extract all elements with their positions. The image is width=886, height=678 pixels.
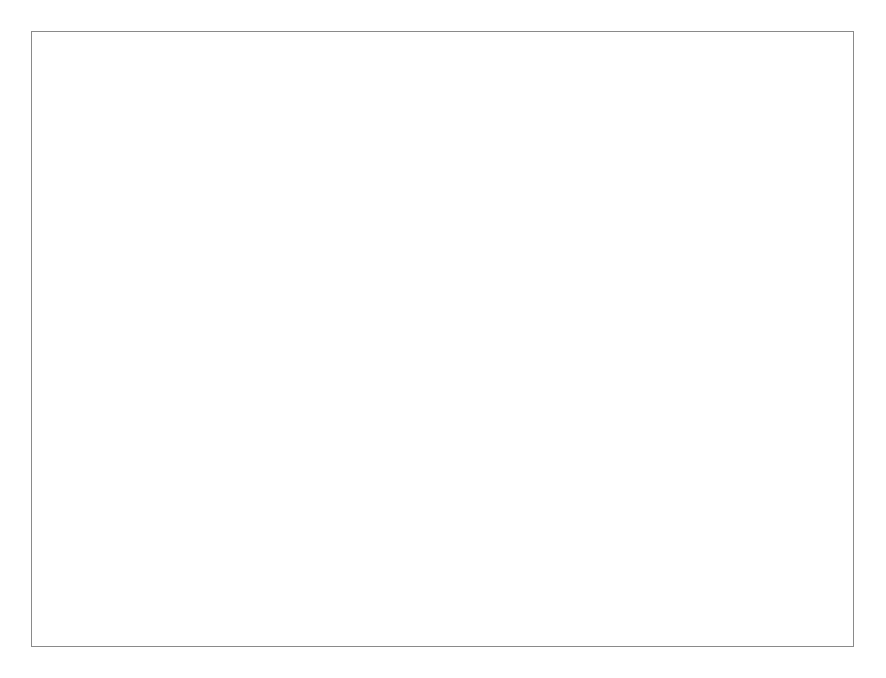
chart-plot bbox=[0, 0, 886, 678]
chart-svg bbox=[0, 0, 886, 678]
